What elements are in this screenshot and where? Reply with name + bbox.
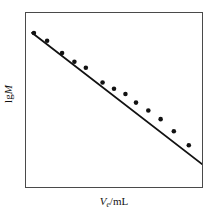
y-axis-label-variable: M <box>2 85 14 94</box>
data-point <box>72 59 77 64</box>
chart-figure: lgM Ve/mL <box>0 0 218 220</box>
regression-line <box>32 33 202 164</box>
data-point <box>158 117 163 122</box>
plot-frame <box>25 12 203 188</box>
data-point <box>146 108 151 113</box>
plot-canvas <box>26 13 202 187</box>
data-point <box>187 143 192 148</box>
data-point <box>45 39 50 44</box>
data-point <box>123 92 128 97</box>
data-point <box>112 86 117 91</box>
data-point-group <box>32 31 191 148</box>
x-axis-label-unit: mL <box>113 195 128 207</box>
y-axis-label-prefix: lg <box>2 94 14 103</box>
data-point <box>134 100 139 105</box>
data-point <box>100 80 105 85</box>
x-axis-label: Ve/mL <box>25 195 203 209</box>
data-point <box>60 51 65 56</box>
data-point <box>84 66 89 71</box>
data-point <box>32 31 37 36</box>
x-axis-label-variable: V <box>100 195 107 207</box>
data-point <box>172 129 177 134</box>
y-axis-label: lgM <box>2 64 14 124</box>
